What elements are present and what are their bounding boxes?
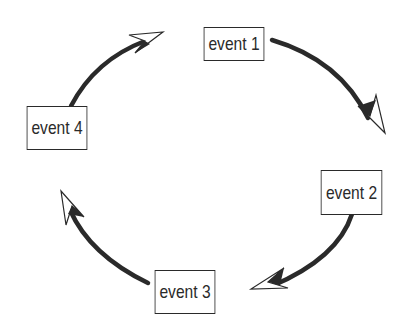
node-event-3: event 3 bbox=[155, 270, 216, 314]
arrow-event4-to-event1 bbox=[71, 32, 163, 106]
cycle-diagram: event 1 event 2 event 3 event 4 bbox=[0, 0, 412, 333]
node-label: event 2 bbox=[326, 182, 377, 204]
node-event-1: event 1 bbox=[204, 27, 265, 61]
arrow-event1-to-event2 bbox=[272, 40, 385, 133]
arrow-event2-to-event3 bbox=[251, 214, 352, 289]
arrow-event3-to-event4 bbox=[61, 191, 148, 283]
node-label: event 1 bbox=[208, 33, 259, 55]
node-label: event 4 bbox=[31, 117, 82, 139]
node-label: event 3 bbox=[159, 281, 210, 303]
node-event-2: event 2 bbox=[321, 170, 383, 215]
node-event-4: event 4 bbox=[27, 106, 88, 150]
